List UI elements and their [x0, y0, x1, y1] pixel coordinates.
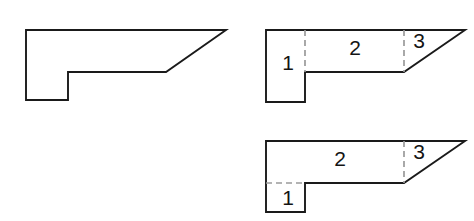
vertical-split-polygon-outline [266, 30, 465, 102]
region-label-3: 3 [413, 140, 425, 163]
undivided-polygon-outline [26, 30, 226, 100]
region-label-2: 2 [334, 147, 346, 170]
region-label-3: 3 [413, 29, 425, 52]
diagram-root: 1 2 3 2 3 1 [0, 0, 474, 221]
shape-decomposition-a: 1 2 3 [266, 29, 465, 102]
region-label-1: 1 [282, 51, 294, 74]
shape-decomposition-b: 2 3 1 [266, 140, 465, 212]
geometry-figure: 1 2 3 2 3 1 [0, 0, 474, 221]
shape-original-figure [26, 30, 226, 100]
horizontal-split-polygon-outline [266, 141, 465, 212]
region-label-1: 1 [282, 186, 294, 209]
region-label-2: 2 [349, 36, 361, 59]
